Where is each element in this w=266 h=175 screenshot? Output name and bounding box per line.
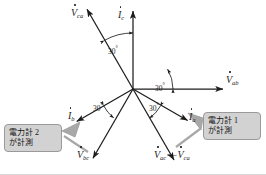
- callout-right-line1: 電力計 1: [208, 116, 256, 127]
- label-v-bc: Vbc: [77, 150, 89, 160]
- callout-left-line2: が計測: [9, 138, 57, 149]
- callout-wattmeter-2: 電力計 2 が計測: [4, 124, 62, 152]
- label-v-ac-equation: Vac=−Vca: [154, 150, 190, 160]
- callout-left-line1: 電力計 2: [9, 128, 57, 139]
- callout-wattmeter-1: 電力計 1 が計測: [203, 112, 261, 140]
- vector-i-a: [133, 89, 188, 121]
- vector-i-b: [77, 89, 133, 122]
- equals-minus-sign: =−: [166, 150, 177, 160]
- label-v-ab: Vab: [226, 75, 239, 85]
- vector-v-bc: [93, 89, 133, 158]
- angle-arc-vab-ia: [168, 69, 173, 89]
- angle-label-vab-ia: 30°: [155, 82, 165, 92]
- callout-right-line2: が計測: [208, 126, 256, 137]
- angle-label-ia-vac: 30°: [149, 102, 159, 112]
- angle-label-ib-vbc: 30°: [93, 102, 103, 112]
- phasor-diagram-figure: Vca Ic Vab Ia Ib Vbc Vac=−Vca 30° 30° 30…: [0, 0, 266, 175]
- label-v-ca: Vca: [71, 8, 83, 18]
- label-i-b: Ib: [68, 111, 75, 121]
- angle-label-vca-ic: 30°: [108, 45, 118, 55]
- callout-left-tail: [62, 122, 88, 152]
- angle-arc-vca-ic: [104, 33, 133, 41]
- label-i-c: Ic: [118, 10, 124, 20]
- label-i-a: Ia: [189, 112, 196, 122]
- angle-arc-ib-vbc: [103, 105, 113, 118]
